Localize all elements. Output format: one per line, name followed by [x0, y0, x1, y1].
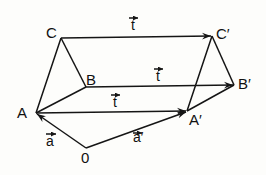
label-c-prime: C′	[216, 25, 230, 42]
svg-text:t: t	[131, 17, 135, 33]
label-vector-a: a	[46, 133, 56, 149]
triangle-abc	[36, 38, 86, 113]
label-vector-t-top: t	[129, 17, 138, 33]
label-b-prime: B′	[238, 75, 251, 92]
vector-t-c-to-c-prime	[61, 36, 211, 38]
vector-a-o-to-a	[37, 114, 86, 148]
label-a: A	[17, 104, 27, 121]
triangle-a-prime-b-prime-c-prime	[187, 36, 234, 111]
label-vector-t-mid: t	[154, 68, 163, 84]
translation-diagram: C B A C′ B′ A′ 0 t t t a a′	[0, 0, 266, 175]
label-b: B	[86, 71, 96, 88]
svg-text:a′: a′	[133, 129, 144, 145]
vector-t-b-to-b-prime	[86, 85, 233, 87]
svg-text:t: t	[156, 68, 160, 84]
label-vector-t-bottom: t	[111, 94, 120, 110]
label-c: C	[46, 24, 57, 41]
svg-text:a: a	[46, 133, 54, 149]
segment-cb	[61, 38, 86, 87]
label-origin: 0	[81, 149, 89, 166]
vector-t-a-to-a-prime	[36, 111, 186, 113]
label-vector-a-prime: a′	[133, 129, 144, 145]
label-a-prime: A′	[189, 111, 202, 128]
segment-c-prime-b-prime	[212, 36, 234, 85]
svg-text:t: t	[113, 94, 117, 110]
